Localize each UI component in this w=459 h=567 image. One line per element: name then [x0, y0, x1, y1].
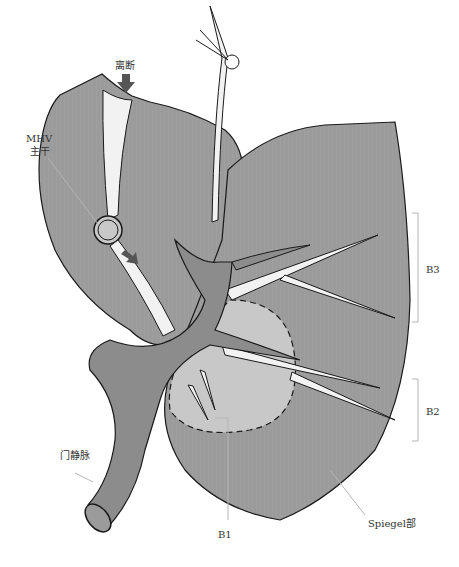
label-mhv: MHV — [26, 133, 52, 145]
label-portal-vein: 门静脉 — [60, 450, 90, 462]
b3-bracket — [412, 213, 418, 322]
b2-bracket — [412, 379, 418, 441]
label-b1: B1 — [218, 529, 232, 541]
label-b3: B3 — [426, 264, 440, 276]
label-transection: 离断 — [115, 60, 135, 72]
label-b2: B2 — [426, 406, 440, 418]
liver-illustration — [0, 0, 459, 567]
label-spiegel: Spiegel部 — [368, 518, 416, 530]
label-mhv-trunk: 主干 — [30, 146, 50, 158]
